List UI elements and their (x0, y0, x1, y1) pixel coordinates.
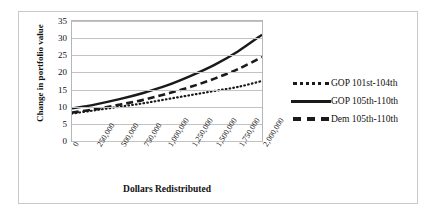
legend-item[interactable]: GOP 105th-110th (291, 92, 411, 110)
gridline (72, 72, 262, 73)
gridline (72, 55, 262, 56)
legend-swatch-dashed-icon (291, 114, 331, 124)
y-tick-label: 20 (41, 68, 67, 77)
y-tick-label: 30 (41, 34, 67, 43)
gridline (72, 107, 262, 108)
legend-label: Dem 105th-110th (331, 114, 398, 124)
x-tick-label: 2,000,000 (262, 117, 286, 148)
y-axis-tick-labels: 05101520253035 (41, 20, 67, 142)
chart-figure: Change in portfolio value 05101520253035… (18, 11, 418, 204)
y-tick-label: 10 (41, 102, 67, 111)
x-axis-title: Dollars Redistributed (71, 184, 263, 194)
y-tick-label: 0 (41, 137, 67, 146)
legend-item[interactable]: Dem 105th-110th (291, 110, 411, 128)
legend-item[interactable]: GOP 101st-104th (291, 74, 411, 92)
gridline (72, 21, 262, 22)
y-tick-label: 5 (41, 119, 67, 128)
chart-legend: GOP 101st-104thGOP 105th-110thDem 105th-… (291, 74, 411, 128)
legend-swatch-solid-icon (291, 96, 331, 106)
gridline (72, 90, 262, 91)
y-tick-label: 35 (41, 17, 67, 26)
legend-swatch-dotted-icon (291, 78, 331, 88)
legend-label: GOP 105th-110th (331, 96, 398, 106)
y-tick-label: 25 (41, 51, 67, 60)
legend-label: GOP 101st-104th (331, 78, 397, 88)
gridline (72, 38, 262, 39)
y-tick-label: 15 (41, 85, 67, 94)
